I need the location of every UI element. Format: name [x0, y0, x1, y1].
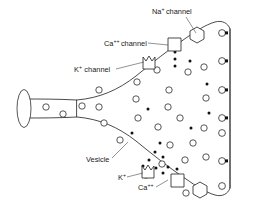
vesicle-circle — [159, 161, 165, 167]
na-channel-label-rest: channel — [166, 7, 192, 16]
vesicle-circle — [135, 115, 141, 121]
ion-dot — [206, 83, 209, 86]
synapse-figure-canvas: Na+channel Ca++channel K+channel Vesicle… — [0, 0, 260, 219]
docked-vesicle — [219, 183, 226, 190]
ion-dot — [208, 112, 211, 115]
vesicle-circle — [133, 96, 139, 102]
vesicle-leader-line — [112, 142, 128, 158]
docked-vesicle — [219, 30, 226, 37]
ion-dot — [189, 60, 192, 63]
ion-dot — [167, 166, 170, 169]
vesicle-circle — [203, 95, 209, 101]
k-channel-upper-notched-square — [143, 56, 155, 69]
ion-dot — [174, 65, 177, 68]
vesicle-release-mark — [225, 59, 228, 62]
vesicle-circle — [183, 190, 189, 196]
na-channel-upper-hexagon — [190, 27, 204, 43]
vesicle-release-mark — [225, 31, 228, 34]
ion-dot — [162, 172, 165, 175]
docked-vesicle — [219, 158, 226, 165]
vesicle-circle — [96, 104, 102, 110]
label-vesicle: Vesicle — [86, 155, 109, 164]
k-ion-label-sup: + — [123, 172, 126, 178]
vesicle-circle — [96, 87, 102, 93]
ion-group — [131, 51, 211, 178]
svg-text:K+: K+ — [118, 172, 126, 182]
vesicle-release-mark — [225, 159, 228, 162]
vesicle-circle — [60, 111, 66, 117]
vesicle-circle — [185, 69, 191, 75]
k-channel-label-sup: + — [79, 64, 82, 70]
ion-dot — [131, 132, 134, 135]
vesicle-circle — [166, 87, 172, 93]
vesicle-release-mark — [225, 116, 228, 119]
vesicle-release-mark — [225, 88, 228, 91]
vesicle-circle — [165, 104, 171, 110]
svg-text:Ca++: Ca++ — [138, 182, 154, 192]
docked-vesicle — [219, 130, 226, 137]
vesicle-circle — [177, 115, 183, 121]
ion-dot — [159, 142, 162, 145]
label-na-channel: Na+channel — [152, 6, 192, 16]
svg-text:Ca++channel: Ca++channel — [104, 38, 147, 48]
ca-ion-leader-line — [156, 180, 168, 187]
vesicle-circle — [201, 64, 207, 70]
label-ca-channel: Ca++channel — [104, 38, 147, 48]
label-k-ion: K+ — [118, 172, 126, 182]
ion-dot — [162, 156, 165, 159]
docked-vesicle — [219, 58, 226, 65]
vesicle-label-base: Vesicle — [86, 155, 109, 164]
docked-vesicle-group — [219, 30, 228, 190]
ion-dot — [154, 151, 157, 154]
axon-cut-end-ellipse — [17, 90, 31, 128]
docked-vesicle — [219, 115, 226, 122]
vesicle-circle — [190, 140, 196, 146]
axon-top-edge — [24, 99, 77, 100]
label-k-channel: K+channel — [74, 64, 111, 74]
k-channel-leader-line — [116, 62, 144, 69]
vesicle-circle — [182, 157, 188, 163]
vesicle-circle — [167, 142, 173, 148]
synapse-diagram: Na+channel Ca++channel K+channel Vesicle… — [0, 0, 260, 219]
vesicle-circle — [79, 103, 85, 109]
ca-channel-upper-square — [168, 38, 181, 51]
ca-channel-lower-square — [171, 174, 184, 187]
vesicle-circle — [134, 79, 140, 85]
vesicle-circle — [203, 154, 209, 160]
k-ion-leader-line — [127, 173, 143, 177]
axon-bottom-edge — [24, 117, 77, 118]
ca-channel-leader-line — [148, 43, 168, 45]
svg-text:Vesicle: Vesicle — [86, 155, 109, 164]
ion-dot — [148, 159, 151, 162]
ion-dot — [190, 127, 193, 130]
vesicle-circle — [117, 137, 123, 143]
ca-ion-label-sup: ++ — [147, 182, 153, 188]
ca-channel-label-rest: channel — [121, 39, 147, 48]
ion-dot — [155, 167, 158, 170]
ion-dot — [174, 58, 177, 61]
na-channel-label-sup: + — [161, 6, 164, 12]
label-ca-ion: Ca++ — [138, 182, 154, 192]
vesicle-circle — [201, 125, 207, 131]
ca-channel-label-sup: ++ — [113, 38, 119, 44]
vesicle-circle — [43, 104, 49, 110]
docked-vesicle — [219, 87, 226, 94]
svg-text:Na+channel: Na+channel — [152, 6, 192, 16]
k-channel-label-rest: channel — [84, 65, 110, 74]
svg-text:K+channel: K+channel — [74, 64, 111, 74]
na-channel-lower-hexagon — [193, 182, 207, 198]
ion-dot — [176, 168, 179, 171]
ion-dot — [147, 108, 150, 111]
vesicle-circle — [155, 124, 161, 130]
vesicle-circle — [101, 120, 107, 126]
